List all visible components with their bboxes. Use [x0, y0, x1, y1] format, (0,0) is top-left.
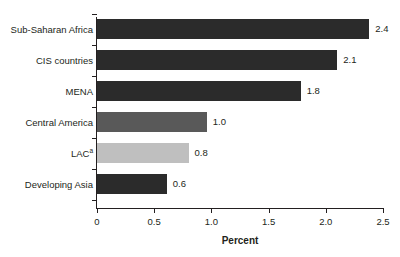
x-axis-tick-label: 2.5	[376, 216, 389, 227]
bar-row[interactable]: 1.8	[97, 81, 383, 101]
bar-row[interactable]: 0.8	[97, 143, 383, 163]
category-label: Central America	[1, 117, 93, 128]
x-axis-tick	[383, 208, 384, 213]
x-axis-tick-label: 1.5	[262, 216, 275, 227]
category-axis-labels: Sub-Saharan AfricaCIS countriesMENACentr…	[0, 17, 93, 208]
x-axis-tick	[211, 208, 212, 213]
category-label: MENA	[1, 86, 93, 97]
x-axis-tick-label: 2.0	[319, 216, 332, 227]
bar-value-label: 0.8	[195, 147, 208, 158]
chart-title-cropped	[86, 0, 316, 1]
bar-row[interactable]: 1.0	[97, 112, 383, 132]
bar[interactable]	[97, 143, 189, 163]
plot-area: 00.51.01.52.02.52.42.11.81.00.80.6	[97, 17, 383, 208]
x-axis-tick	[97, 208, 98, 213]
x-axis-tick	[154, 208, 155, 213]
x-axis-tick	[326, 208, 327, 213]
bar[interactable]	[97, 112, 207, 132]
y-axis-tick	[92, 14, 97, 15]
category-label: LACa	[1, 148, 93, 159]
bar[interactable]	[97, 19, 369, 39]
x-axis-tick	[269, 208, 270, 213]
bar[interactable]	[97, 50, 337, 70]
bar-row[interactable]: 0.6	[97, 174, 383, 194]
bar-value-label: 0.6	[173, 178, 186, 189]
x-axis-line	[96, 208, 384, 209]
category-label: CIS countries	[1, 55, 93, 66]
category-label: Sub-Saharan Africa	[1, 24, 93, 35]
x-axis-tick-label: 0.5	[148, 216, 161, 227]
bar[interactable]	[97, 81, 301, 101]
x-axis-tick-label: 1.0	[205, 216, 218, 227]
bar-value-label: 1.8	[307, 85, 320, 96]
x-axis-tick-label: 0	[94, 216, 99, 227]
y-axis-tick	[92, 200, 97, 201]
x-axis-title: Percent	[0, 235, 400, 246]
category-label-footnote-marker: a	[89, 147, 93, 154]
bar[interactable]	[97, 174, 167, 194]
bar-value-label: 2.1	[343, 54, 356, 65]
bar-value-label: 1.0	[213, 116, 226, 127]
bar-row[interactable]: 2.1	[97, 50, 383, 70]
category-label: Developing Asia	[1, 179, 93, 190]
y-axis-tick	[92, 45, 97, 46]
y-axis-tick	[92, 76, 97, 77]
chart-figure: Sub-Saharan AfricaCIS countriesMENACentr…	[0, 0, 400, 257]
y-axis-tick	[92, 169, 97, 170]
bar-row[interactable]: 2.4	[97, 19, 383, 39]
y-axis-tick	[92, 107, 97, 108]
bar-value-label: 2.4	[375, 23, 388, 34]
y-axis-tick	[92, 138, 97, 139]
